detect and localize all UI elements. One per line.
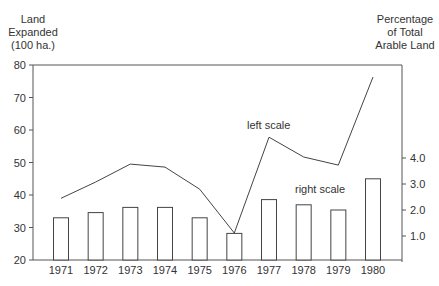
- left-scale-annotation: left scale: [247, 119, 290, 131]
- x-tick-label: 1976: [222, 264, 246, 276]
- bar: [262, 200, 277, 260]
- left-tick-label: 60: [14, 124, 26, 136]
- line-series: [61, 77, 373, 233]
- left-tick-label: 20: [14, 254, 26, 266]
- bar: [123, 207, 138, 260]
- left-tick-label: 30: [14, 222, 26, 234]
- x-tick-label: 1974: [153, 264, 177, 276]
- left-tick-label: 70: [14, 92, 26, 104]
- left-tick-label: 80: [14, 59, 26, 71]
- bar: [227, 233, 242, 260]
- left-axis: 20304050607080: [14, 59, 33, 266]
- right-axis: 1.02.03.04.0: [402, 152, 425, 242]
- x-tick-label: 1978: [291, 264, 315, 276]
- x-axis-labels: 1971197219731974197519761977197819791980: [49, 264, 385, 276]
- x-tick-label: 1972: [83, 264, 107, 276]
- left-tick-label: 40: [14, 189, 26, 201]
- x-tick-label: 1977: [257, 264, 281, 276]
- x-tick-label: 1971: [49, 264, 73, 276]
- right-tick-label: 2.0: [410, 204, 425, 216]
- right-scale-annotation: right scale: [295, 183, 345, 195]
- land-expanded-line: [61, 77, 373, 233]
- right-tick-label: 1.0: [410, 230, 425, 242]
- chart-plot: 20304050607080 1.02.03.04.0 197119721973…: [0, 0, 439, 286]
- bar: [88, 213, 103, 260]
- bar: [331, 210, 346, 260]
- bar: [366, 179, 381, 260]
- x-tick-label: 1975: [187, 264, 211, 276]
- right-tick-label: 3.0: [410, 178, 425, 190]
- bar: [192, 218, 207, 260]
- bar: [296, 205, 311, 260]
- x-tick-label: 1979: [326, 264, 350, 276]
- x-tick-label: 1973: [118, 264, 142, 276]
- right-tick-label: 4.0: [410, 152, 425, 164]
- bar: [158, 207, 173, 260]
- bar: [54, 218, 69, 260]
- x-tick-label: 1980: [361, 264, 385, 276]
- left-tick-label: 50: [14, 157, 26, 169]
